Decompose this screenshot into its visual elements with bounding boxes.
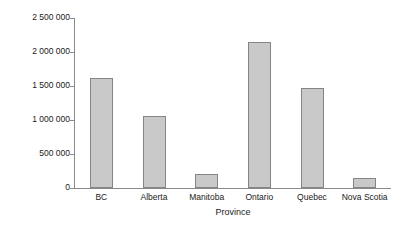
- y-axis-tick-label: 2 500 000: [2, 13, 70, 22]
- bar-chart: Visits 0500 0001 000 0001 500 0002 000 0…: [0, 0, 394, 232]
- bar: [143, 116, 166, 188]
- x-axis-category-label: Alberta: [128, 192, 181, 203]
- y-axis-tick-mark: [70, 120, 74, 121]
- x-axis-category-label: Ontario: [233, 192, 286, 203]
- bar: [195, 174, 218, 188]
- y-axis-tick-mark: [70, 18, 74, 19]
- y-axis-tick-label: 0: [2, 183, 70, 192]
- y-axis-tick-mark: [70, 52, 74, 53]
- bar: [90, 78, 113, 188]
- y-axis-tick-mark: [70, 188, 74, 189]
- y-axis-tick-label: 2 000 000: [2, 47, 70, 56]
- x-axis-category-label: Nova Scotia: [338, 192, 391, 203]
- y-axis-tick-mark: [70, 86, 74, 87]
- y-axis-tick-label: 500 000: [2, 149, 70, 158]
- y-axis-tick-label: 1 000 000: [2, 115, 70, 124]
- bar: [301, 88, 324, 188]
- x-axis-category-label: Manitoba: [180, 192, 233, 203]
- y-axis-tick-label: 1 500 000: [2, 81, 70, 90]
- x-axis-category-labels: BCAlbertaManitobaOntarioQuebecNova Scoti…: [75, 192, 391, 206]
- x-axis-category-label: Quebec: [286, 192, 339, 203]
- plot-area: [75, 18, 391, 188]
- x-axis-line: [74, 188, 391, 189]
- y-axis-tick-mark: [70, 154, 74, 155]
- y-axis-tick-labels: 0500 0001 000 0001 500 0002 000 0002 500…: [0, 0, 70, 232]
- x-axis-title: Province: [75, 207, 391, 217]
- bar: [248, 42, 271, 188]
- bar: [353, 178, 376, 188]
- x-axis-category-label: BC: [75, 192, 128, 203]
